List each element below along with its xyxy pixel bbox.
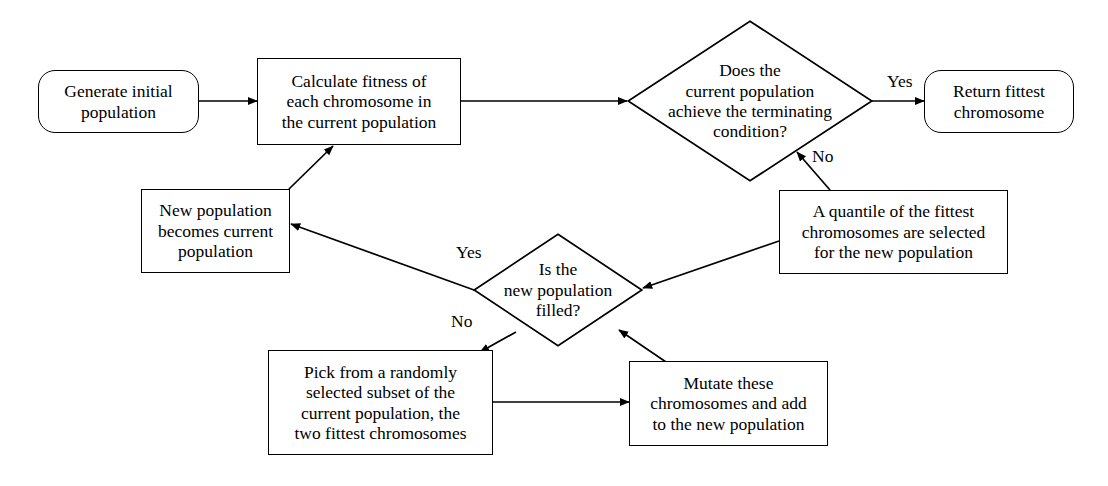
node-label: Pick from a randomly selected subset of …	[290, 362, 470, 444]
node-generate-initial-population[interactable]: Generate initial population	[38, 70, 199, 133]
node-new-population-becomes-current[interactable]: New population becomes current populatio…	[141, 189, 290, 273]
node-calculate-fitness[interactable]: Calculate fitness of each chromosome in …	[257, 58, 461, 145]
node-label: Is the new population filled?	[504, 259, 612, 320]
edge-quantile-to-filled	[643, 241, 779, 288]
flowchart-canvas: Generate initial population Calculate fi…	[0, 0, 1108, 486]
edge-new-population-to-calculate	[289, 146, 333, 189]
node-mutate-chromosomes[interactable]: Mutate these chromosomes and add to the …	[629, 361, 828, 446]
node-pick-random-subset[interactable]: Pick from a randomly selected subset of …	[268, 350, 493, 455]
edge-filled-yes-to-new-population	[291, 224, 474, 290]
node-quantile-selected[interactable]: A quantile of the fittest chromosomes ar…	[779, 190, 1008, 274]
node-label: Generate initial population	[60, 81, 176, 122]
node-label: Calculate fitness of each chromosome in …	[278, 71, 441, 132]
node-new-population-filled[interactable]: Is the new population filled?	[473, 233, 643, 347]
node-label: Mutate these chromosomes and add to the …	[646, 373, 811, 434]
node-label: New population becomes current populatio…	[154, 200, 277, 261]
edge-label-terminating-yes: Yes	[887, 73, 912, 91]
node-label: A quantile of the fittest chromosomes ar…	[798, 201, 990, 262]
edge-label-terminating-no: No	[812, 148, 833, 166]
edge-label-filled-no: No	[451, 313, 472, 331]
node-label: Does the current population achieve the …	[668, 60, 832, 142]
node-terminating-condition[interactable]: Does the current population achieve the …	[627, 20, 873, 182]
node-label: Return fittest chromosome	[949, 81, 1049, 122]
node-return-fittest-chromosome[interactable]: Return fittest chromosome	[924, 70, 1074, 133]
edge-label-filled-yes: Yes	[456, 244, 481, 262]
